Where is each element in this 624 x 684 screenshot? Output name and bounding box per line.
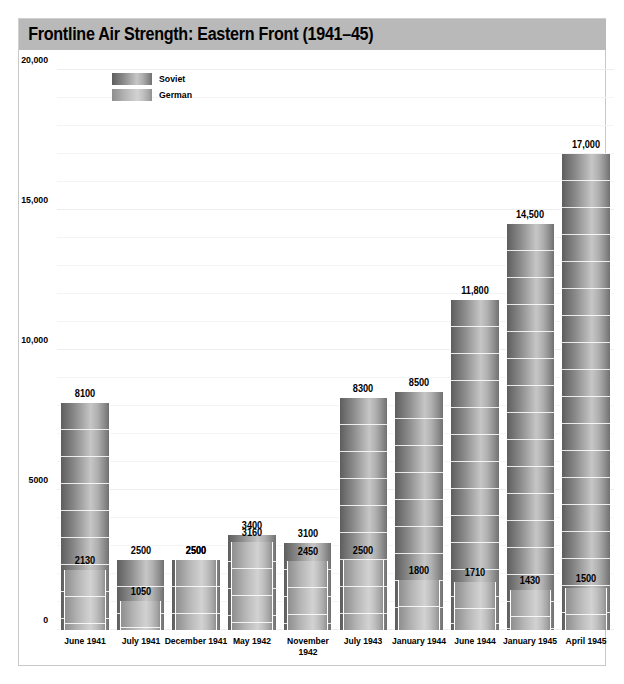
bar-value-label-german: 1050 xyxy=(130,586,150,597)
bar-soviet[interactable] xyxy=(450,300,500,630)
bar-german[interactable] xyxy=(510,590,552,630)
bar-value-label-soviet: 14,500 xyxy=(516,209,544,220)
bar-value-label-german: 1710 xyxy=(464,567,484,578)
bar-value-label-soviet: 8500 xyxy=(409,377,429,388)
legend-item[interactable]: German xyxy=(112,88,232,101)
y-axis-tick-label: 10,000 xyxy=(0,334,48,345)
bar-group[interactable]: 81002130June 1941 xyxy=(60,70,110,630)
bar-value-label-soviet: 2500 xyxy=(130,545,150,556)
bar-value-label-german: 1800 xyxy=(409,565,429,576)
bar-german[interactable] xyxy=(231,542,273,630)
bar-value-label-german: 2500 xyxy=(353,545,373,556)
bar-value-label-german: 1500 xyxy=(576,573,596,584)
bar-value-label-german: 3160 xyxy=(242,527,262,538)
bar-soviet[interactable] xyxy=(506,224,556,630)
legend-item[interactable]: Soviet xyxy=(112,72,232,85)
bar-value-label-german: 2500 xyxy=(186,545,206,556)
bar-german[interactable] xyxy=(287,561,329,630)
y-axis-tick-label: 20,000 xyxy=(0,54,48,65)
bar-value-label-german: 2130 xyxy=(75,555,95,566)
bar-value-label-soviet: 11,800 xyxy=(461,285,489,296)
bar-group[interactable]: 25001050July 1941 xyxy=(116,70,166,630)
bar-german[interactable] xyxy=(454,582,496,630)
y-axis-tick-label: 0 xyxy=(0,614,48,625)
bar-group[interactable]: 11,8001710June 1944 xyxy=(450,70,500,630)
chart-legend: SovietGerman xyxy=(112,72,232,104)
x-axis-label: April 1945 xyxy=(546,635,624,646)
bar-group[interactable]: 85001800January 1944 xyxy=(394,70,444,630)
page-title: Frontline Air Strength: Eastern Front (1… xyxy=(19,24,373,45)
chart-plot-area: 20,00015,00010,00050000 81002130June 194… xyxy=(57,70,614,630)
bar-german[interactable] xyxy=(565,588,607,630)
legend-label: Soviet xyxy=(159,73,185,84)
legend-swatch-german xyxy=(112,89,152,101)
bar-group[interactable]: 34003160May 1942 xyxy=(227,70,277,630)
bar-value-label-soviet: 3100 xyxy=(297,528,317,539)
bar-group[interactable]: 14,5001430January 1945 xyxy=(506,70,556,630)
legend-label: German xyxy=(159,89,192,100)
bar-soviet[interactable] xyxy=(561,154,611,630)
bar-value-label-soviet: 8100 xyxy=(75,388,95,399)
bar-group[interactable]: 31002450November 1942 xyxy=(283,70,333,630)
bar-german[interactable] xyxy=(64,570,106,630)
bar-group[interactable]: 83002500July 1943 xyxy=(339,70,389,630)
bar-german[interactable] xyxy=(175,560,217,630)
chart-page: Frontline Air Strength: Eastern Front (1… xyxy=(0,0,624,684)
legend-swatch-soviet xyxy=(112,73,152,85)
bar-value-label-soviet: 8300 xyxy=(353,383,373,394)
bar-group[interactable]: 17,0001500April 1945 xyxy=(561,70,611,630)
y-axis-tick-label: 5000 xyxy=(0,474,48,485)
bar-german[interactable] xyxy=(120,601,162,630)
chart-title-bar: Frontline Air Strength: Eastern Front (1… xyxy=(18,18,606,50)
y-axis-tick-label: 15,000 xyxy=(0,194,48,205)
bar-value-label-soviet: 17,000 xyxy=(572,139,600,150)
bar-value-label-german: 2450 xyxy=(297,546,317,557)
bar-value-label-german: 1430 xyxy=(520,575,540,586)
bar-german[interactable] xyxy=(398,580,440,630)
bar-group[interactable]: 25002500December 1941 xyxy=(171,70,221,630)
bar-german[interactable] xyxy=(343,560,385,630)
